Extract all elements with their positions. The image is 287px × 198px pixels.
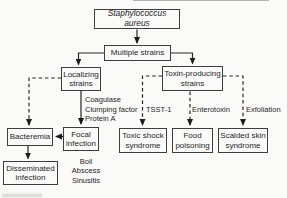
node-focal-infection: Focal infection <box>63 127 99 151</box>
node-toxin-producing-strains: Toxin-producing strains <box>162 66 223 91</box>
edge-toxin-to-scaldedskin-dashed <box>223 76 243 125</box>
node-staphylococcus-aureus: Staphylococcus aureus <box>94 9 180 29</box>
label-virulence-factors: Coagulase Clumping factor Protein A <box>85 95 138 124</box>
node-multiple-strains: Multiple strains <box>104 45 171 61</box>
scan-crop-line <box>133 0 269 1</box>
node-localizing-strains: Localizing strains <box>61 67 101 91</box>
scan-caption-smudge <box>2 194 42 197</box>
edge-toxin-to-toxicshock-dashed <box>143 76 163 125</box>
node-food-poisoning: Food poisoning <box>172 128 213 153</box>
label-focal-examples: Boil Abscess Sinusitis <box>63 157 109 185</box>
node-scalded-skin-syndrome: Scalded skin syndrome <box>218 128 268 153</box>
node-disseminated-infection: Disseminated infection <box>3 161 58 185</box>
edge-multiple-to-toxin <box>171 53 193 64</box>
label-exfoliation: Exfoliation <box>246 105 281 115</box>
label-tsst-1: TSST-1 <box>146 105 171 115</box>
label-enterotoxin: Enterotoxin <box>192 105 230 115</box>
node-toxic-shock-syndrome: Toxic shock syndrome <box>119 128 167 153</box>
flowchart-canvas: Staphylococcus aureus Multiple strains L… <box>0 0 287 198</box>
edge-multiple-to-localizing <box>79 53 105 65</box>
node-bacteremia: Bacteremia <box>7 128 53 146</box>
edge-localizing-to-bacteremia-dashed <box>29 78 61 125</box>
